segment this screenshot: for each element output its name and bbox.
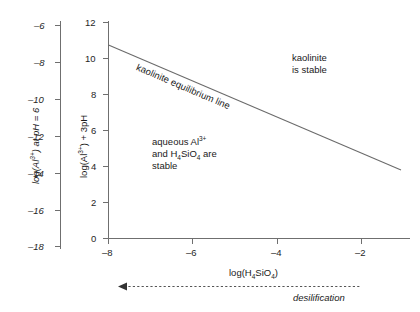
xtick-label: –8 xyxy=(102,247,113,259)
xtick-label: –2 xyxy=(355,247,366,259)
secondary-ytick-label: –14 xyxy=(28,168,44,180)
kaolinite-equilibrium-line-label: kaolinite equilibrium line xyxy=(135,61,232,111)
annotation-aqueous-line3: stable xyxy=(152,160,217,172)
xaxis-title-mid: SiO xyxy=(255,267,271,278)
xtick-label: –6 xyxy=(186,247,197,259)
primary-yaxis-title-sup: 3+ xyxy=(77,146,84,153)
primary-ytick-label: 10 xyxy=(85,53,96,65)
primary-ytick-label: 6 xyxy=(91,125,96,137)
chart-text-layer: log(Al3+) at pH = 6 –6 –8 –10 –12 –14 –1… xyxy=(0,0,420,312)
primary-yaxis-title: log(Al3+) + 3pH xyxy=(78,115,90,178)
secondary-ytick-label: –6 xyxy=(34,20,45,32)
primary-yaxis-title-pre: log(Al xyxy=(78,154,89,178)
annotation-aqueous-stable: aqueous Al3+ and H4SiO4 are stable xyxy=(152,136,217,172)
annotation-aqueous-line1-sup: 3+ xyxy=(199,135,206,142)
secondary-ytick-label: –18 xyxy=(28,241,44,253)
xaxis-title-end: ) xyxy=(275,267,278,278)
secondary-ytick-label: –12 xyxy=(28,131,44,143)
annotation-kaolinite-stable-line1: kaolinite xyxy=(292,52,327,64)
primary-ytick-label: 8 xyxy=(91,89,96,101)
annotation-aqueous-line1: aqueous Al3+ xyxy=(152,136,217,148)
xaxis-title: log(H4SiO4) xyxy=(229,267,278,279)
annotation-aqueous-line2-post: are xyxy=(200,148,216,159)
primary-ytick-label: 12 xyxy=(85,17,96,29)
secondary-ytick-label: –8 xyxy=(34,57,45,69)
secondary-yaxis-title-sup: 3+ xyxy=(29,152,36,159)
primary-ytick-label: 4 xyxy=(91,161,96,173)
primary-yaxis-title-post: ) + 3pH xyxy=(78,115,89,146)
xaxis-title-pre: log(H xyxy=(229,267,252,278)
primary-ytick-label: 2 xyxy=(91,197,96,209)
desilification-label: desilification xyxy=(293,292,345,304)
xtick-label: –4 xyxy=(271,247,282,259)
annotation-aqueous-line1-pre: aqueous Al xyxy=(152,136,199,147)
annotation-aqueous-line2-pre: and H xyxy=(152,148,177,159)
secondary-ytick-label: –10 xyxy=(28,94,44,106)
kaolinite-stability-diagram: log(Al3+) at pH = 6 –6 –8 –10 –12 –14 –1… xyxy=(0,0,420,312)
annotation-kaolinite-stable: kaolinite is stable xyxy=(292,52,327,76)
annotation-kaolinite-stable-line2: is stable xyxy=(292,64,327,76)
annotation-aqueous-line2: and H4SiO4 are xyxy=(152,148,217,160)
annotation-aqueous-line2-mid: SiO xyxy=(181,148,197,159)
primary-ytick-label: 0 xyxy=(91,233,96,245)
secondary-ytick-label: –16 xyxy=(28,205,44,217)
